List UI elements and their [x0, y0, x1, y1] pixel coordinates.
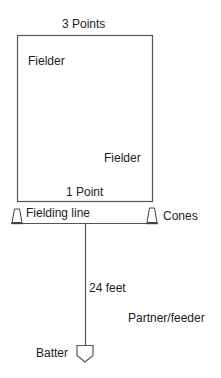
batter-label: Batter [36, 346, 68, 360]
fielder-label-1: Fielder [28, 54, 65, 68]
left-cone-icon [11, 209, 23, 224]
fielding-line-label: Fielding line [26, 206, 90, 220]
bottom-score-label: 1 Point [66, 185, 103, 199]
cones-label: Cones [163, 209, 198, 223]
distance-label: 24 feet [89, 281, 126, 295]
top-score-label: 3 Points [62, 17, 105, 31]
fielder-label-2: Fielder [104, 151, 141, 165]
home-plate-icon [77, 346, 93, 363]
drill-diagram: 3 Points Fielder Fielder 1 Point Fieldin… [0, 0, 221, 378]
right-cone-icon [146, 208, 158, 224]
partner-feeder-label: Partner/feeder [128, 311, 205, 325]
